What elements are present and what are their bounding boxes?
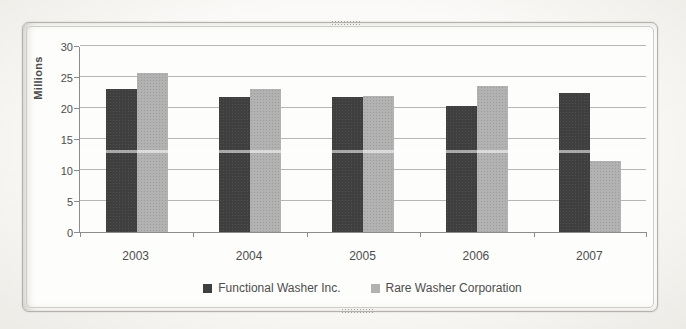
bar-group-2004	[193, 47, 306, 232]
x-axis-tick	[646, 232, 647, 237]
y-axis-label: 15	[23, 133, 73, 147]
bar-group-2003	[80, 47, 193, 232]
bar-2005-series-1	[363, 96, 394, 232]
bar-2006-series-0	[446, 106, 477, 232]
legend-swatch-icon	[371, 284, 380, 293]
bar-2004-series-0	[219, 97, 250, 232]
chart-frame: Millions 051015202530 200320042005200620…	[22, 22, 658, 312]
legend-swatch-icon	[203, 284, 212, 293]
legend-item-1: Rare Washer Corporation	[371, 281, 522, 295]
bar-2003-series-1	[137, 73, 168, 232]
bar-group-2007	[534, 47, 647, 232]
y-axis-label: 30	[23, 40, 73, 54]
x-axis-tick	[307, 232, 308, 237]
bar-2005-series-0	[332, 97, 363, 232]
x-axis-label-2005: 2005	[306, 249, 419, 264]
x-axis-tick	[420, 232, 421, 237]
y-axis-label: 5	[23, 195, 73, 209]
bar-2003-series-0	[106, 89, 137, 232]
plot-area	[79, 47, 646, 233]
legend: Functional Washer Inc.Rare Washer Corpor…	[79, 280, 646, 296]
y-axis-label: 25	[23, 71, 73, 85]
bar-2006-series-1	[477, 86, 508, 232]
scan-artifact	[341, 308, 375, 314]
x-axis-tick	[80, 232, 81, 237]
bar-2007-series-0	[559, 93, 590, 232]
bar-2004-series-1	[250, 89, 281, 232]
bar-group-2005	[307, 47, 420, 232]
x-axis-label-2004: 2004	[192, 249, 305, 264]
legend-item-0: Functional Washer Inc.	[203, 281, 340, 295]
gridline-30	[80, 45, 646, 46]
x-axis-label-2006: 2006	[419, 249, 532, 264]
x-axis-tick	[193, 232, 194, 237]
x-axis-label-2003: 2003	[79, 249, 192, 264]
bar-2007-series-1	[590, 161, 621, 232]
x-axis-tick	[534, 232, 535, 237]
bar-group-2006	[420, 47, 533, 232]
x-axis-labels: 20032004200520062007	[79, 249, 646, 264]
y-axis-label: 0	[23, 226, 73, 240]
legend-label: Rare Washer Corporation	[386, 281, 522, 295]
x-axis-label-2007: 2007	[533, 249, 646, 264]
y-axis-label: 10	[23, 164, 73, 178]
scanned-page: Millions 051015202530 200320042005200620…	[0, 0, 686, 329]
y-axis-label: 20	[23, 102, 73, 116]
scan-artifact	[331, 20, 361, 26]
legend-label: Functional Washer Inc.	[218, 281, 340, 295]
y-axis-labels: 051015202530	[23, 47, 73, 233]
